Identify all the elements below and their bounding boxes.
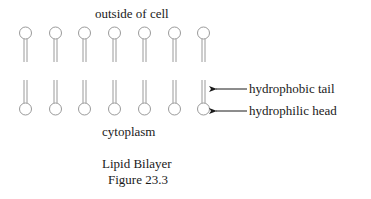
- lipid-head: [139, 27, 151, 39]
- lipid-molecule: [139, 27, 151, 62]
- lipid-molecule: [79, 80, 91, 115]
- lipid-molecule: [50, 80, 62, 115]
- lipid-molecule: [198, 80, 210, 115]
- lipid-head: [139, 103, 151, 115]
- lipid-molecule: [169, 27, 181, 62]
- outer-lipid-layer: [20, 27, 210, 62]
- lipid-molecule: [20, 80, 32, 115]
- lipid-bilayer-diagram: [0, 0, 371, 199]
- lipid-molecule: [169, 80, 181, 115]
- lipid-molecule: [139, 80, 151, 115]
- lipid-head: [79, 27, 91, 39]
- lipid-head: [50, 27, 62, 39]
- caption-title: Lipid Bilayer: [102, 157, 172, 170]
- lipid-molecule: [50, 27, 62, 62]
- lipid-molecule: [20, 27, 32, 62]
- lipid-molecule: [109, 80, 121, 115]
- lipid-head: [198, 103, 210, 115]
- hydrophobic-tail-label: hydrophobic tail: [249, 82, 335, 95]
- lipid-head: [20, 27, 32, 39]
- lipid-head: [20, 103, 32, 115]
- lipid-head: [109, 27, 121, 39]
- lipid-molecule: [198, 27, 210, 62]
- cytoplasm-label: cytoplasm: [102, 125, 155, 138]
- hydrophilic-head-label: hydrophilic head: [249, 104, 337, 117]
- lipid-head: [109, 103, 121, 115]
- inner-lipid-layer: [20, 80, 210, 115]
- lipid-head: [79, 103, 91, 115]
- lipid-head: [198, 27, 210, 39]
- lipid-head: [169, 27, 181, 39]
- caption-figure: Figure 23.3: [108, 173, 168, 186]
- lipid-molecule: [109, 27, 121, 62]
- lipid-head: [50, 103, 62, 115]
- lipid-molecule: [79, 27, 91, 62]
- outside-of-cell-label: outside of cell: [95, 7, 169, 20]
- lipid-head: [169, 103, 181, 115]
